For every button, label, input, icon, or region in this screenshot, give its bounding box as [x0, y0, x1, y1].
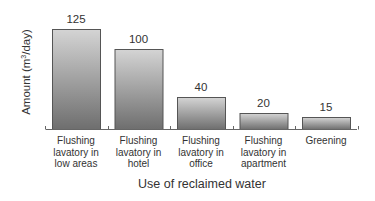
bar [53, 30, 101, 130]
y-axis-label-suffix: /day) [20, 29, 32, 55]
bar [178, 98, 226, 130]
category-label: Flushinglavatory inoffice [178, 135, 224, 169]
bar-value-label: 100 [129, 33, 148, 45]
bar [115, 50, 163, 130]
bar-value-label: 15 [320, 101, 333, 113]
y-axis-label-prefix: Amount (m [20, 59, 32, 115]
bar-value-label: 20 [257, 97, 270, 109]
bar [240, 114, 288, 130]
bar-chart: Amount (m3/day) 125100402015 Flushinglav… [0, 0, 375, 201]
bar-value-label: 40 [195, 81, 208, 93]
bar [303, 118, 351, 130]
category-label: Greening [305, 135, 346, 146]
y-axis-label: Amount (m3/day) [20, 29, 32, 115]
category-label: Flushinglavatory inapartment [241, 135, 287, 169]
bar-value-label: 125 [66, 13, 85, 25]
bars-group: 125100402015 [53, 13, 351, 130]
category-label: Flushinglavatory inhotel [116, 135, 162, 169]
category-label: Flushinglavatory inlow areas [53, 135, 99, 169]
category-labels: Flushinglavatory inlow areasFlushinglava… [53, 135, 346, 169]
x-axis-title: Use of reclaimed water [138, 177, 266, 191]
